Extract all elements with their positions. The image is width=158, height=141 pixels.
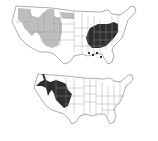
- us-map-top-svg: [8, 2, 153, 70]
- us-range-map-top: [8, 2, 153, 70]
- gulf-point-1: [88, 52, 90, 54]
- figure: [0, 0, 158, 141]
- gulf-point-2: [92, 54, 94, 56]
- gulf-point-3: [96, 52, 98, 54]
- gulf-point-4: [100, 56, 102, 58]
- us-map-bottom-svg: [32, 72, 148, 136]
- us-range-map-bottom: [32, 72, 148, 136]
